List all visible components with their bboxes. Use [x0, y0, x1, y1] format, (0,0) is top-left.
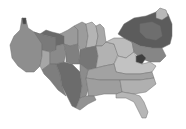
region-plains-central — [64, 44, 80, 64]
region-west-coast — [10, 18, 42, 72]
region-wa-tip — [22, 18, 26, 24]
region-carolinas-georgia — [120, 78, 156, 94]
us-cartogram-map — [0, 0, 186, 129]
state-regions — [10, 8, 172, 118]
region-deep-south — [86, 78, 122, 96]
region-florida — [116, 92, 148, 118]
